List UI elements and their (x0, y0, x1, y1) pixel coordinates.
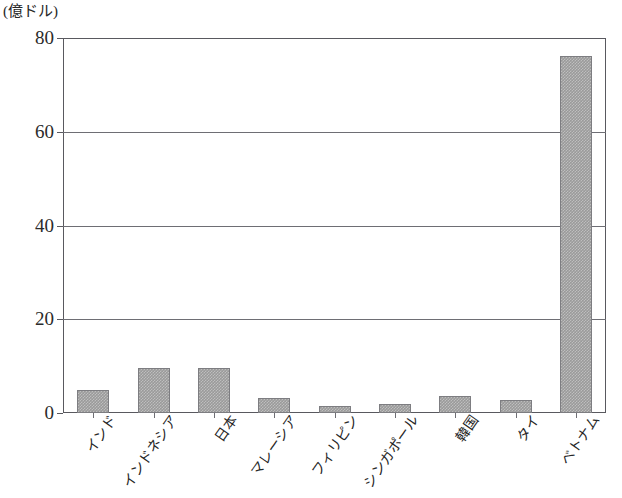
y-axis-tick-label: 20 (6, 309, 54, 328)
x-axis-category-label: インドネシア (119, 413, 179, 490)
x-axis-category-label: 韓国 (453, 413, 481, 445)
bar (198, 368, 230, 413)
bar (319, 406, 351, 413)
x-axis-category-label: フィリピン (308, 413, 360, 479)
bar (379, 404, 411, 413)
y-axis-tick-label: 60 (6, 122, 54, 141)
bar (560, 56, 592, 413)
y-axis-tick-label: 80 (6, 28, 54, 47)
bar (500, 400, 532, 413)
x-axis-category-label: シンガポール (361, 413, 421, 490)
bar (439, 396, 471, 413)
x-axis-category-label: マレーシア (248, 413, 300, 479)
y-axis-tick-label: 40 (6, 216, 54, 235)
x-axis-category-label: 日本 (212, 413, 240, 445)
x-axis-category-label: インド (83, 413, 119, 456)
x-axis-category-label: ベトナム (558, 413, 602, 467)
bar-chart: (億ドル) 806040200 インドインドネシア日本マレーシアフィリピンシンガ… (0, 0, 622, 498)
bars-group (63, 38, 606, 413)
x-axis-labels: インドインドネシア日本マレーシアフィリピンシンガポール韓国タイベトナム (0, 413, 622, 498)
bar (258, 398, 290, 413)
bar (138, 368, 170, 413)
x-axis-category-label: タイ (513, 413, 541, 445)
bar (77, 390, 109, 413)
